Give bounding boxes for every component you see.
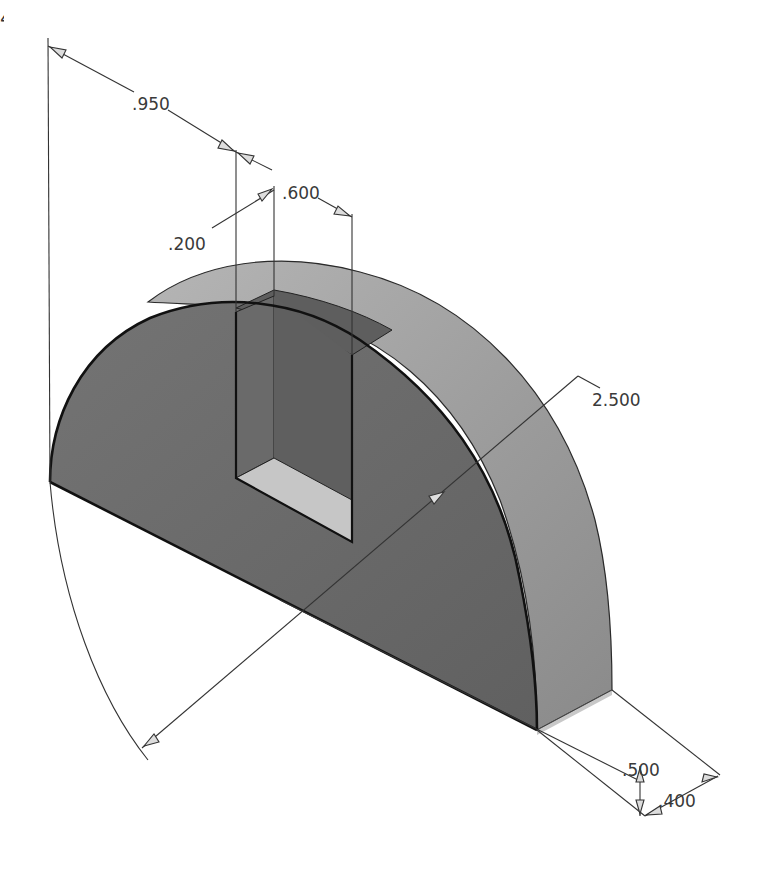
isometric-part-drawing: .950 .600 .200 2.500 .500 .400 xyxy=(0,0,776,872)
dim-slot-width: .600 xyxy=(282,183,320,203)
arrow-icon xyxy=(50,47,66,58)
arrow-icon xyxy=(258,189,272,201)
arrow-icon xyxy=(218,140,234,151)
dim-height: .500 xyxy=(622,760,660,780)
dim-diameter: 2.500 xyxy=(592,390,641,410)
arrow-icon xyxy=(238,153,254,164)
dim-slot-depth-offset: .200 xyxy=(168,234,206,254)
arrow-icon xyxy=(636,800,644,814)
slot-left-wall xyxy=(236,296,274,478)
dim-thickness: .400 xyxy=(658,791,696,811)
arrow-icon xyxy=(334,206,350,216)
dim-slot-offset: .950 xyxy=(132,94,170,114)
